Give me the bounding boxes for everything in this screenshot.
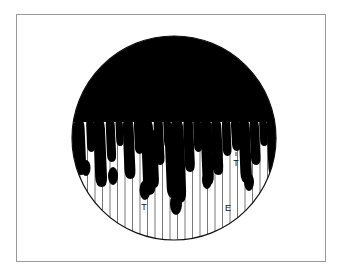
figure-root: T T E (0, 0, 343, 278)
figure-illustration: T T E (0, 0, 343, 278)
label-t-lower: T (141, 202, 147, 212)
label-e: E (225, 203, 231, 213)
label-t-upper: T (233, 158, 239, 168)
